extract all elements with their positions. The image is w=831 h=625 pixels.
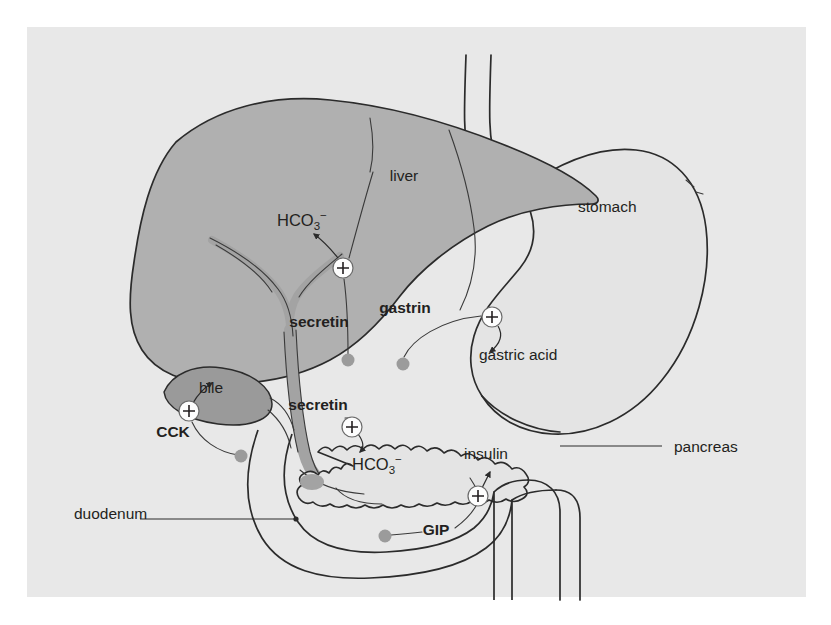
anatomy-diagram: liver stomach pancreas duodenum secretin… bbox=[0, 0, 831, 625]
figure-root: liver stomach pancreas duodenum secretin… bbox=[0, 0, 831, 625]
label-secretin-liver: secretin bbox=[289, 313, 348, 330]
label-liver: liver bbox=[390, 167, 418, 184]
ampulla-of-vater bbox=[300, 474, 324, 490]
label-cck: CCK bbox=[156, 423, 190, 440]
cell-secretin-liver bbox=[342, 354, 355, 367]
label-duodenum: duodenum bbox=[74, 505, 147, 522]
label-hco3-pancreas: HCO3− bbox=[352, 453, 402, 476]
label-bile: bile bbox=[199, 379, 223, 396]
plus-marker-bile bbox=[179, 401, 199, 421]
duodenum-leader-dot bbox=[293, 516, 298, 521]
label-insulin: insulin bbox=[464, 445, 508, 462]
plus-marker-insulin bbox=[468, 486, 488, 506]
cell-gastrin bbox=[397, 358, 410, 371]
cell-cck bbox=[235, 450, 248, 463]
label-secretin-pancreas: secretin bbox=[288, 396, 347, 413]
plus-marker-gastric-acid bbox=[482, 307, 502, 327]
cell-gip bbox=[379, 530, 392, 543]
label-gastric-acid: gastric acid bbox=[479, 346, 557, 363]
label-gip: GIP bbox=[423, 521, 450, 538]
plus-marker-hco3-pancreas bbox=[342, 417, 362, 437]
label-pancreas: pancreas bbox=[674, 438, 738, 455]
label-stomach: stomach bbox=[578, 198, 637, 215]
label-gastrin: gastrin bbox=[379, 299, 431, 316]
plus-marker-hco3-liver bbox=[333, 258, 353, 278]
label-hco3-liver: HCO3− bbox=[277, 209, 327, 232]
